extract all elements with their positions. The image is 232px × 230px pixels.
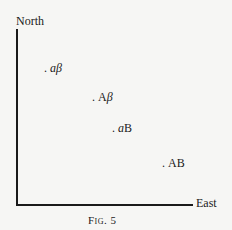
point-marker: .	[92, 90, 95, 104]
figure-5: North East .aβ .Aβ .aB .AB Fig. 5	[0, 0, 232, 230]
point-upper: B	[124, 121, 132, 135]
point-greek: β	[56, 61, 62, 75]
point-marker: .	[44, 61, 47, 75]
point-a-beta: .aβ	[44, 62, 62, 74]
y-axis-line	[16, 29, 18, 206]
point-upper: A	[98, 90, 107, 104]
point-a-B: .aB	[112, 122, 132, 134]
point-A-beta: .Aβ	[92, 91, 113, 103]
figure-caption: Fig. 5	[88, 214, 117, 226]
axis-label-east: East	[196, 197, 217, 209]
point-A-B: .AB	[162, 157, 185, 169]
point-marker: .	[112, 121, 115, 135]
axis-label-north: North	[16, 15, 44, 27]
x-axis-line	[16, 204, 193, 206]
point-upper: AB	[168, 156, 185, 170]
point-greek: β	[107, 90, 113, 104]
point-marker: .	[162, 156, 165, 170]
